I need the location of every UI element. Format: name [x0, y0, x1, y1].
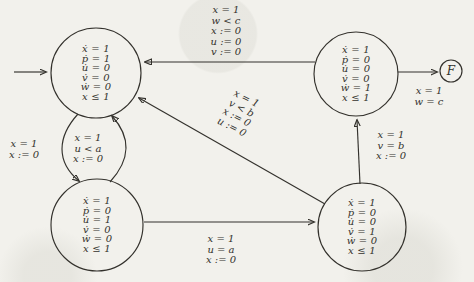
- guard-line: x := 0: [211, 26, 242, 37]
- guard-line: w = c: [415, 96, 444, 107]
- guard-line: v := 0: [211, 47, 242, 58]
- guard-line: x = 1: [415, 86, 444, 97]
- edge-label-top-right-to-final: x = 1 w = c: [415, 86, 444, 107]
- edge-label-bottom-right-to-top-right: x = 1 v = b x := 0: [376, 130, 406, 162]
- edge-label-top-left-to-bottom-left: x = 1 x := 0: [9, 139, 39, 160]
- guard-line: x := 0: [376, 151, 406, 162]
- state-top-right-flow: ẋ = 1 ṗ = 0 u̇ = 0 v̇ = 0 ẇ = 1 x ≤ 1: [341, 45, 372, 103]
- edge-bottom-right-to-top-right: [357, 120, 360, 184]
- flow-line: x ≤ 1: [82, 244, 113, 254]
- flow-line: x ≤ 1: [347, 246, 378, 256]
- final-state-label: F: [447, 65, 455, 77]
- guard-line: x := 0: [73, 154, 103, 165]
- guard-line: x = 1: [206, 234, 236, 245]
- guard-line: x := 0: [206, 255, 236, 266]
- guard-line: x = 1: [211, 5, 242, 16]
- flow-line: x ≤ 1: [81, 92, 112, 102]
- flow-line: x ≤ 1: [341, 93, 372, 103]
- hybrid-automaton-figure: ẋ = 1 ṗ = 1 u̇ = 0 v̇ = 0 ẇ = 0 x ≤ 1…: [0, 0, 474, 282]
- guard-line: x = 1: [9, 139, 39, 150]
- state-bottom-left-flow: ẋ = 1 ṗ = 0 u̇ = 1 v̇ = 0 ẇ = 0 x ≤ 1: [82, 196, 113, 254]
- edge-bottom-left-to-top-left: [110, 116, 126, 182]
- edge-label-bottom-left-to-bottom-right: x = 1 u = a x := 0: [206, 234, 236, 266]
- guard-line: x = 1: [73, 133, 103, 144]
- edge-label-bottom-left-to-top-left: x = 1 u < a x := 0: [73, 133, 103, 165]
- edge-label-top-right-to-top-left: x = 1 w < c x := 0 u := 0 v := 0: [211, 5, 242, 58]
- state-bottom-right-flow: ẋ = 1 ṗ = 0 u̇ = 0 v̇ = 1 ẇ = 0 x ≤ 1: [347, 198, 378, 256]
- guard-line: x := 0: [9, 149, 39, 160]
- state-top-left-flow: ẋ = 1 ṗ = 1 u̇ = 0 v̇ = 0 ẇ = 0 x ≤ 1: [81, 44, 112, 102]
- guard-line: x = 1: [376, 130, 406, 141]
